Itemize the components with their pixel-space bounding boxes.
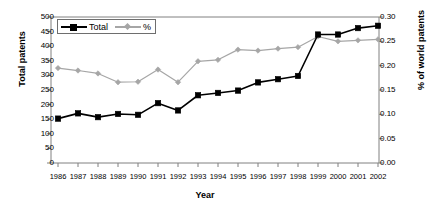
legend-entry-percent: % <box>115 22 151 32</box>
patents-line-chart: Total patents % of world patents Year 05… <box>0 0 436 213</box>
legend-entry-total: Total <box>61 22 108 32</box>
legend-label-total: Total <box>89 22 108 32</box>
legend-label-percent: % <box>143 22 151 32</box>
legend-marker-total <box>61 22 87 31</box>
chart-legend: Total % <box>57 19 156 34</box>
x-axis-tick: 2002 <box>363 172 393 181</box>
legend-marker-percent <box>115 22 141 31</box>
